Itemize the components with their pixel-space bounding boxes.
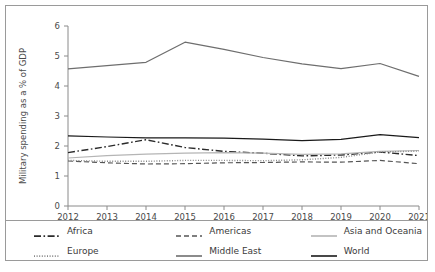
legend-item-americas[interactable]: Americas: [146, 226, 286, 236]
legend-item-asia-and-oceania[interactable]: Asia and Oceania: [287, 226, 427, 236]
plot-area: 0123456 20122013201420152016201720182019…: [6, 6, 427, 220]
series-line-world: [68, 135, 419, 141]
legend-label-americas: Americas: [209, 226, 251, 236]
svg-text:2016: 2016: [213, 212, 235, 220]
y-axis-label: Military spending as a % of GDP: [18, 48, 28, 184]
svg-text:2020: 2020: [369, 212, 391, 220]
legend-label-asia-and-oceania: Asia and Oceania: [344, 226, 422, 236]
legend-swatch-europe: [34, 246, 60, 256]
series-line-middle-east: [68, 42, 419, 76]
svg-text:2021: 2021: [408, 212, 427, 220]
svg-text:2014: 2014: [135, 212, 157, 220]
series-lines: [68, 42, 419, 164]
legend-item-africa[interactable]: Africa: [6, 226, 146, 236]
legend-swatch-americas: [176, 226, 202, 236]
legend-item-europe[interactable]: Europe: [6, 246, 146, 256]
svg-text:2: 2: [55, 141, 60, 151]
legend-row-1: Africa Americas Asia and Oceania: [6, 221, 427, 241]
svg-text:0: 0: [55, 201, 60, 211]
legend-row-2: Europe Middle East World: [6, 241, 427, 261]
svg-text:6: 6: [55, 21, 60, 31]
legend-label-africa: Africa: [67, 226, 93, 236]
legend-swatch-world: [311, 246, 337, 256]
svg-text:3: 3: [55, 111, 60, 121]
legend-label-europe: Europe: [67, 246, 99, 256]
svg-text:4: 4: [55, 81, 60, 91]
legend-swatch-africa: [34, 226, 60, 236]
chart-frame: 0123456 20122013201420152016201720182019…: [5, 5, 428, 261]
svg-text:2017: 2017: [252, 212, 274, 220]
y-axis: 0123456: [55, 21, 68, 211]
legend-swatch-middle-east: [176, 246, 202, 256]
legend-swatch-asia-and-oceania: [311, 226, 337, 236]
svg-text:Military spending as a % of GD: Military spending as a % of GDP: [18, 48, 28, 184]
legend-item-middle-east[interactable]: Middle East: [146, 246, 286, 256]
chart-legend: Africa Americas Asia and Oceania Europe …: [6, 220, 427, 260]
svg-text:2018: 2018: [291, 212, 313, 220]
svg-text:2012: 2012: [57, 212, 79, 220]
legend-label-middle-east: Middle East: [209, 246, 261, 256]
svg-text:5: 5: [55, 51, 60, 61]
legend-item-world[interactable]: World: [287, 246, 427, 256]
svg-text:1: 1: [55, 171, 60, 181]
svg-text:2015: 2015: [174, 212, 196, 220]
svg-text:2013: 2013: [96, 212, 118, 220]
x-axis: 2012201320142015201620172018201920202021: [57, 206, 427, 220]
line-chart-svg: 0123456 20122013201420152016201720182019…: [6, 6, 427, 220]
svg-text:2019: 2019: [330, 212, 352, 220]
legend-label-world: World: [344, 246, 370, 256]
